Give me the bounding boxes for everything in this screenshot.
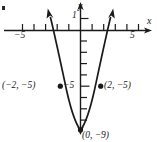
y-tick-label-1: 1 [72, 11, 77, 21]
point-label-vertex: (0, −9) [82, 131, 109, 141]
x-tick-label-5: 5 [130, 31, 135, 41]
coordinate-graph-canvas [0, 0, 157, 142]
x-axis-label: x [147, 16, 151, 26]
y-axis-label: y [78, 1, 82, 11]
curve-arrowhead-right-icon [108, 9, 115, 19]
point-marker-right [98, 84, 103, 89]
y-axis-ticks [81, 19, 90, 121]
x-tick-label-neg5: −5 [14, 31, 25, 41]
graph-figure: y x 1 −5 5 −5 (−2, −5) (2, −5) (0, −9) [0, 0, 157, 142]
y-tick-label-neg5: −5 [63, 81, 74, 91]
point-label-left: (−2, −5) [2, 81, 35, 91]
point-label-right: (2, −5) [104, 81, 131, 91]
